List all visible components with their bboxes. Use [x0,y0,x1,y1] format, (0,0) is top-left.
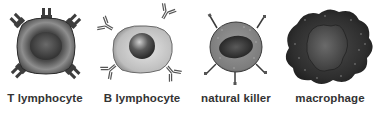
macrophage-cell [275,0,380,88]
t-lymphocyte-label: T lymphocyte [7,92,82,104]
natural-killer-icon [190,0,280,88]
macrophage-icon [275,0,380,90]
b-lymphocyte-cell [90,0,190,88]
natural-killer-label: natural killer [201,92,271,104]
t-lymphocyte-cell [0,0,95,88]
b-lymphocyte-icon [90,0,190,88]
natural-killer-cell [190,0,280,88]
b-lymphocyte-label: B lymphocyte [104,92,181,104]
macrophage-label: macrophage [295,92,364,104]
t-lymphocyte-icon [0,0,95,88]
